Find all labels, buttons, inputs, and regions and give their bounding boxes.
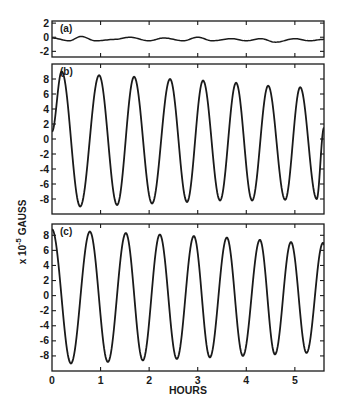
data-line (52, 229, 324, 363)
y-tick-label: 2 (43, 118, 49, 130)
y-tick-label: 2 (43, 274, 49, 286)
panel-b: 86420-2-4-6-8(b) (40, 64, 324, 214)
y-tick-label: 8 (43, 229, 49, 241)
panel-c: 86420-2-4-6-8(c) (40, 224, 324, 371)
data-line (52, 37, 324, 43)
y-tick-label: 0 (43, 133, 49, 145)
y-tick-label: -8 (40, 349, 49, 361)
y-tick-label: -2 (40, 45, 49, 57)
y-tick-label: -4 (40, 163, 49, 175)
y-tick-label: -2 (40, 304, 49, 316)
y-tick-label: 4 (43, 259, 49, 271)
y-tick-label: 6 (43, 244, 49, 256)
x-axis-title: HOURS (169, 384, 207, 396)
svg-text:x 10-5GAUSS: x 10-5GAUSS (14, 199, 28, 264)
x-tick-label: 4 (243, 374, 249, 386)
y-axis-title-suffix: GAUSS (17, 199, 28, 235)
y-tick-label: -2 (40, 148, 49, 160)
x-tick-label: 1 (98, 374, 104, 386)
y-tick-label: 6 (43, 88, 49, 100)
y-tick-label: -6 (40, 334, 49, 346)
y-axis-title-prefix: x 10 (17, 244, 28, 264)
panel-a: 20-2(a) (40, 17, 324, 57)
figure: 20-2(a) 86420-2-4-6-8(b) 86420-2-4-6-8(c… (0, 0, 344, 417)
y-axis-title-exponent: -5 (14, 238, 23, 245)
x-tick-label: 2 (146, 374, 152, 386)
x-tick-label: 5 (292, 374, 298, 386)
x-tick-label: 0 (49, 374, 55, 386)
y-tick-label: 4 (43, 103, 49, 115)
y-axis-title: x 10-5GAUSS (14, 199, 28, 264)
data-line (52, 72, 324, 207)
y-tick-label: 0 (43, 31, 49, 43)
y-tick-label: -8 (40, 193, 49, 205)
y-tick-label: -4 (40, 319, 49, 331)
plot-frame (52, 21, 324, 57)
panel-label: (a) (60, 23, 72, 34)
y-tick-label: 8 (43, 73, 49, 85)
y-tick-label: -6 (40, 178, 49, 190)
y-tick-label: 2 (43, 17, 49, 29)
y-tick-label: 0 (43, 289, 49, 301)
panel-label: (c) (60, 226, 72, 237)
plot-frame (52, 64, 324, 214)
